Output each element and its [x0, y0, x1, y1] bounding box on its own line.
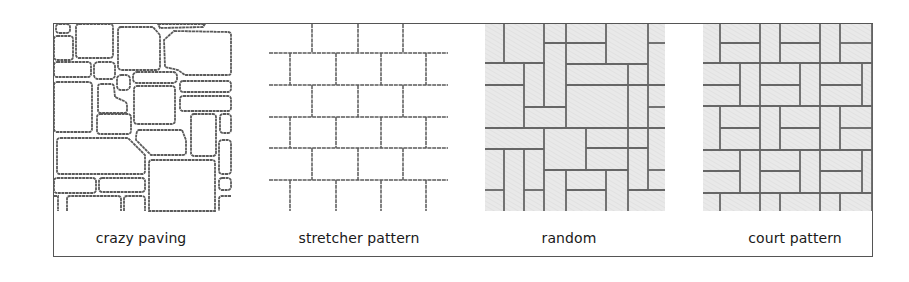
crazy-paving-label: crazy paving — [96, 230, 187, 246]
court-pattern-panel — [703, 24, 872, 211]
stretcher-pattern-panel — [269, 24, 448, 211]
random-label: random — [542, 230, 597, 246]
court-pattern-label: court pattern — [748, 230, 842, 246]
random-pattern-panel — [485, 24, 665, 211]
stretcher-pattern-label: stretcher pattern — [299, 230, 420, 246]
crazy-paving-panel — [54, 24, 231, 211]
